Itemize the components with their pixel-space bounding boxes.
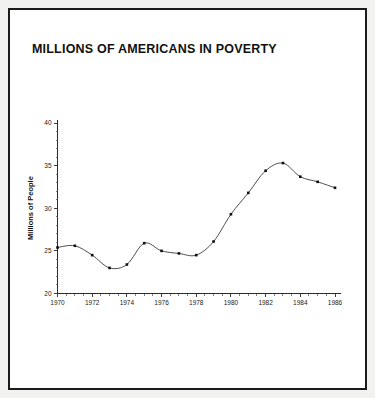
- y-axis: 2025303540 Millions of People: [26, 119, 58, 297]
- data-point-1975: [143, 242, 146, 245]
- data-point-1983: [282, 162, 285, 165]
- data-point-1980: [230, 213, 233, 216]
- data-series-group: [56, 162, 336, 269]
- x-tick-labels: 197019721974197619781980198219841986: [50, 299, 342, 306]
- data-point-1985: [316, 181, 319, 184]
- x-tick-label-1974: 1974: [120, 299, 135, 306]
- x-tick-label-1972: 1972: [85, 299, 100, 306]
- data-point-1971: [74, 244, 77, 247]
- figure-root: MILLIONS OF AMERICANS IN POVERTY 2025303…: [0, 0, 375, 398]
- line-chart-svg: 2025303540 Millions of People 1970197219…: [0, 0, 375, 398]
- series-line-americans-in-poverty: [58, 163, 336, 269]
- x-tick-marks: [58, 294, 336, 298]
- y-tick-label-20: 20: [44, 290, 52, 297]
- y-tick-labels: 2025303540: [44, 119, 52, 297]
- y-tick-label-30: 30: [44, 205, 52, 212]
- data-point-1986: [334, 186, 337, 189]
- y-tick-label-25: 25: [44, 247, 52, 254]
- x-tick-label-1976: 1976: [154, 299, 169, 306]
- x-tick-label-1970: 1970: [50, 299, 65, 306]
- series-markers: [56, 162, 336, 269]
- data-point-1976: [160, 250, 163, 253]
- data-point-1972: [91, 254, 94, 257]
- x-tick-label-1984: 1984: [293, 299, 308, 306]
- plot-area: 2025303540 Millions of People 1970197219…: [0, 0, 375, 398]
- x-tick-label-1982: 1982: [258, 299, 273, 306]
- x-tick-label-1978: 1978: [189, 299, 204, 306]
- data-point-1973: [108, 267, 111, 270]
- data-point-1970: [56, 246, 59, 249]
- x-axis: 197019721974197619781980198219841986: [50, 294, 342, 306]
- y-axis-title: Millions of People: [26, 176, 35, 240]
- x-tick-label-1980: 1980: [224, 299, 239, 306]
- data-point-1977: [178, 252, 181, 255]
- data-point-1982: [264, 169, 267, 172]
- data-point-1979: [212, 240, 215, 243]
- data-point-1974: [126, 263, 129, 266]
- data-point-1978: [195, 254, 198, 257]
- data-point-1984: [299, 175, 302, 178]
- x-tick-label-1986: 1986: [328, 299, 343, 306]
- y-tick-marks: [54, 123, 58, 294]
- y-tick-label-40: 40: [44, 119, 52, 126]
- y-tick-label-35: 35: [44, 162, 52, 169]
- data-point-1981: [247, 192, 250, 195]
